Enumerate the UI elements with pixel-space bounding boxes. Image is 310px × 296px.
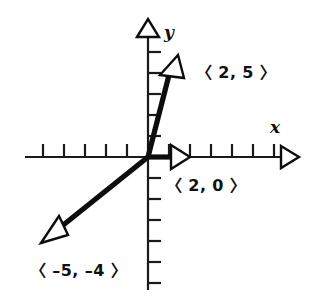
vector-diagram-figure: x y 〈 2, 5 〉 〈 2, 0 〉 〈 –5, –4 〉	[0, 0, 310, 296]
vector-2-0-label: 〈 2, 0 〉	[166, 176, 246, 195]
vector-2-5-label: 〈 2, 5 〉	[196, 63, 276, 82]
vector-neg5-neg4-arrowhead-icon	[41, 216, 68, 243]
vector-2-5	[148, 55, 184, 157]
x-axis-ticks-negative	[43, 144, 127, 157]
vector-neg5-neg4-label: 〈 –5, –4 〉	[30, 261, 127, 280]
vector-2-0-arrowhead-icon	[171, 145, 190, 169]
vector-neg5-neg4-shaft	[62, 157, 148, 226]
y-axis-arrowhead-icon	[137, 19, 159, 37]
x-axis-arrowhead-icon	[281, 146, 299, 168]
vector-2-5-arrowhead-icon	[160, 55, 184, 78]
y-axis-label: y	[163, 22, 175, 42]
x-axis-label: x	[269, 117, 281, 137]
y-axis-ticks-negative	[148, 178, 161, 283]
vector-neg5-neg4	[41, 157, 148, 243]
coordinate-plane-svg: x y 〈 2, 5 〉 〈 2, 0 〉 〈 –5, –4 〉	[0, 0, 310, 296]
